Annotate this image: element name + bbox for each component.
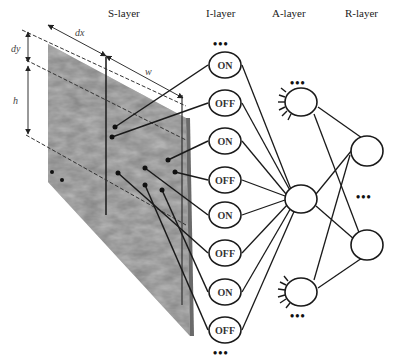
i-node-4: OFF xyxy=(209,167,241,193)
i-node-2: OFF xyxy=(209,90,241,116)
i-node-1: ON xyxy=(209,52,241,78)
r-layer-title: R-layer xyxy=(345,7,378,19)
r-node-bottom xyxy=(351,230,383,260)
r-layer-ellipsis: ••• xyxy=(356,190,372,204)
i-node-5: ON xyxy=(209,202,241,228)
i-node-3: ON xyxy=(209,128,241,154)
i-node-7: ON xyxy=(209,279,241,305)
r-node-top xyxy=(351,136,383,166)
perceptron-diagram: S-layer I-layer A-layer R-layer dy h dx … xyxy=(0,0,394,363)
a-layer-title: A-layer xyxy=(272,7,306,19)
a-layer-bottom-ellipsis: ••• xyxy=(290,309,306,323)
i-layer-bottom-ellipsis: ••• xyxy=(213,346,229,360)
i-node-label: OFF xyxy=(215,248,235,259)
sensor-panel xyxy=(48,44,194,336)
a-node-bottom xyxy=(278,276,317,308)
i-layer: ••• ON OFF ON OFF ON OFF ON OFF ••• xyxy=(209,37,241,360)
a-node-top xyxy=(278,88,317,120)
a-layer: ••• ••• xyxy=(278,76,317,323)
i-node-label: OFF xyxy=(215,325,235,336)
i-layer-top-ellipsis: ••• xyxy=(213,37,229,51)
i-layer-title: I-layer xyxy=(206,7,236,19)
a-node-middle xyxy=(285,185,317,213)
i-node-label: ON xyxy=(218,136,234,147)
dy-label: dy xyxy=(11,43,21,54)
i-node-8: OFF xyxy=(209,317,241,343)
h-label: h xyxy=(13,95,18,106)
i-node-label: OFF xyxy=(215,98,235,109)
i-node-label: ON xyxy=(218,287,234,298)
dx-label: dx xyxy=(75,27,85,38)
i-node-label: ON xyxy=(218,210,234,221)
w-label: w xyxy=(145,66,152,77)
i-node-label: OFF xyxy=(215,175,235,186)
i-node-6: OFF xyxy=(209,240,241,266)
i-node-label: ON xyxy=(218,60,234,71)
s-layer-title: S-layer xyxy=(108,7,140,19)
r-layer: ••• xyxy=(351,136,383,260)
